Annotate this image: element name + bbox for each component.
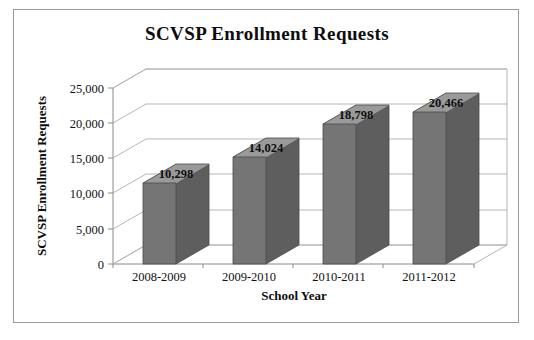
bar-2011-2012[interactable] (413, 93, 479, 264)
chart-x-axis-labels: 2008-2009 2009-2010 2010-2011 2011-2012 (132, 270, 456, 284)
y-tick-label-5000: 5,000 (76, 223, 104, 237)
y-tick-label-15000: 15,000 (70, 152, 104, 166)
chart-y-axis-ticks (108, 88, 113, 264)
y-tick-label-0: 0 (98, 258, 104, 272)
chart-x-axis-ticks (113, 264, 474, 268)
x-tick-label-2009-2010: 2009-2010 (222, 270, 276, 284)
x-tick-label-2011-2012: 2011-2012 (402, 270, 456, 284)
chart-plot-area: 25,000 20,000 15,000 10,000 5,000 0 SCVS… (0, 0, 534, 340)
bar-2009-2010[interactable] (233, 138, 299, 264)
value-label-2008-2009: 10,298 (159, 167, 193, 181)
x-tick-label-2010-2011: 2010-2011 (312, 270, 366, 284)
chart-y-axis-labels: 25,000 20,000 15,000 10,000 5,000 0 (70, 82, 104, 272)
y-axis-title: SCVSP Enrollment Requests (34, 96, 49, 256)
y-tick-label-10000: 10,000 (70, 187, 104, 201)
value-label-2009-2010: 14,024 (249, 141, 284, 155)
y-tick-label-20000: 20,000 (70, 117, 104, 131)
x-tick-label-2008-2009: 2008-2009 (132, 270, 186, 284)
bar-2010-2011[interactable] (323, 105, 389, 264)
x-axis-title: School Year (261, 288, 327, 303)
y-tick-label-25000: 25,000 (70, 82, 104, 96)
figure: SCVSP Enrollment Requests (0, 0, 534, 340)
value-label-2011-2012: 20,466 (429, 96, 463, 110)
value-label-2010-2011: 18,798 (339, 108, 373, 122)
